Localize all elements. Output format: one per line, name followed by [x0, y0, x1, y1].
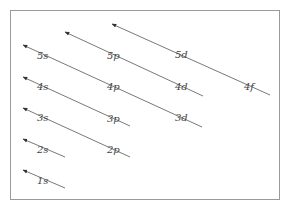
diagonal-arrow-1s: 1s [23, 170, 65, 188]
orbital-label-4p: 4p [106, 81, 120, 92]
diagonal-arrow-5p-4d: 5p4d [65, 32, 203, 96]
orbital-label-5d: 5d [175, 49, 188, 60]
orbital-label-3s: 3s [37, 112, 49, 123]
orbital-label-5s: 5s [37, 50, 49, 61]
orbital-label-2p: 2p [106, 144, 120, 155]
orbital-label-4f: 4f [243, 81, 256, 92]
orbital-label-2s: 2s [36, 144, 49, 155]
orbital-diagonal-diagram: 1s2s3s2p4s3p5s4p3d5p4d5d4f [0, 0, 290, 210]
diagonal-arrow-5d-4f: 5d4f [112, 24, 270, 95]
orbital-label-3d: 3d [175, 112, 188, 123]
orbital-label-3p: 3p [107, 113, 120, 124]
orbital-label-4s: 4s [36, 81, 49, 92]
orbital-label-1s: 1s [37, 175, 49, 186]
orbital-label-4d: 4d [174, 81, 188, 92]
orbital-label-5p: 5p [107, 50, 120, 61]
diagonal-arrow-2s: 2s [23, 139, 65, 157]
